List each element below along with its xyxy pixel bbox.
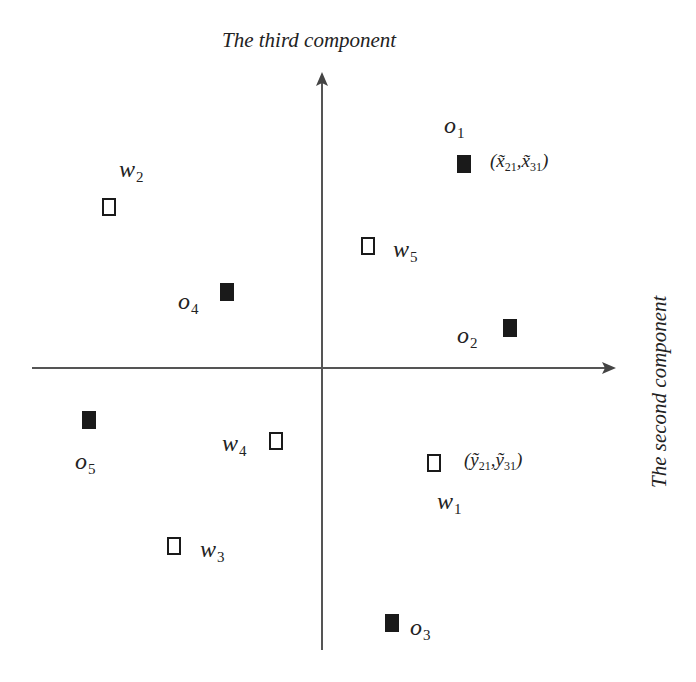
marker-w4: [269, 432, 283, 450]
marker-w5: [361, 237, 375, 255]
w1-coordinate-annotation: (ỹ21,ỹ31): [464, 449, 522, 474]
label-o4: o4: [178, 288, 199, 318]
o1-coordinate-annotation: (x̃21,x̃31): [490, 150, 548, 175]
marker-w1: [427, 454, 441, 472]
label-o1: o1: [444, 112, 465, 142]
marker-w2: [102, 198, 116, 216]
marker-o5: [82, 411, 96, 429]
label-o3: o3: [410, 614, 431, 644]
axes-canvas: [0, 0, 696, 682]
marker-o3: [385, 614, 399, 632]
marker-w3: [167, 537, 181, 555]
marker-o4: [220, 283, 234, 301]
label-w4: w4: [222, 430, 247, 460]
marker-o2: [503, 319, 517, 337]
horizontal-axis-title: The second component: [647, 296, 672, 488]
label-o2: o2: [457, 322, 478, 352]
label-o5: o5: [75, 448, 96, 478]
label-w3: w3: [200, 536, 225, 566]
label-w2: w2: [119, 156, 144, 186]
marker-o1: [457, 155, 471, 173]
label-w1: w1: [437, 488, 462, 518]
vertical-axis-title: The third component: [222, 28, 396, 53]
label-w5: w5: [393, 236, 418, 266]
